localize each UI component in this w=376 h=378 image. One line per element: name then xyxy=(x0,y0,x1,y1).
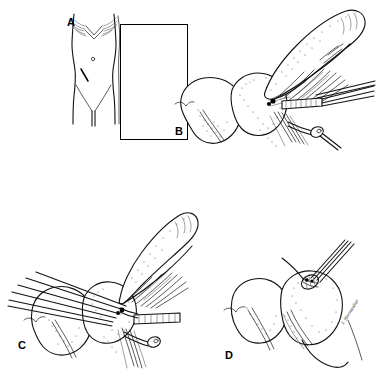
clavicle-shading xyxy=(71,18,117,36)
figure-canvas: A xyxy=(0,0,376,378)
kelly-clamp-jaw xyxy=(282,98,322,109)
panel-a-label: A xyxy=(67,17,75,28)
panel-d-label: D xyxy=(225,350,233,361)
crushing-clamp-jaw-c xyxy=(134,313,180,324)
torso-right-contour xyxy=(113,14,116,124)
appendix-base-ligated-illustration xyxy=(8,190,208,370)
torso-illustration xyxy=(60,12,128,128)
torso-left-contour xyxy=(72,14,75,124)
panel-b: B xyxy=(170,0,376,150)
appendix xyxy=(265,10,366,99)
incision-line-mcburney xyxy=(81,69,88,81)
inguinal-fold-left xyxy=(76,85,92,111)
panel-c: C xyxy=(8,190,208,370)
inguinal-fold-right xyxy=(95,85,111,111)
panel-d: D J. Hormuzdiar xyxy=(212,240,376,378)
peritoneal-edge-d xyxy=(348,320,362,360)
appendix-clamped-illustration xyxy=(170,0,376,150)
panel-b-label: B xyxy=(175,126,183,137)
kelly-clamp-shanks xyxy=(322,86,374,106)
ileum-loop-d xyxy=(231,279,288,344)
sternal-notch xyxy=(85,26,103,39)
panel-c-label: C xyxy=(18,340,26,351)
appendix-c xyxy=(119,213,198,304)
needle-holder-d xyxy=(311,240,354,282)
umbilicus xyxy=(91,57,94,61)
panel-a: A xyxy=(60,12,128,128)
